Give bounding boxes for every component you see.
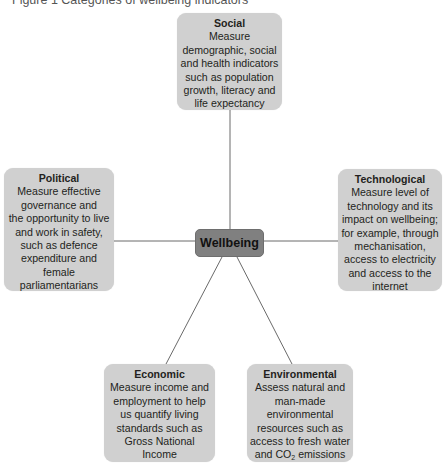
node-economic-heading: Economic <box>106 368 213 381</box>
node-economic: Economic Measure income and employment t… <box>104 364 215 462</box>
node-technological: Technological Measure level of technolog… <box>338 169 442 291</box>
node-social-body: Measure demographic, social and health i… <box>179 30 280 110</box>
node-environmental: Environmental Assess natural and man-mad… <box>247 364 353 462</box>
node-economic-body: Measure income and employment to help us… <box>106 381 213 461</box>
node-political: Political Measure effective governance a… <box>4 168 114 291</box>
node-political-heading: Political <box>6 172 112 185</box>
node-environmental-body: Assess natural and man-made environmenta… <box>249 381 351 461</box>
node-political-body: Measure effective governance and the opp… <box>6 185 112 292</box>
center-node-wellbeing: Wellbeing <box>195 229 264 257</box>
node-technological-heading: Technological <box>340 173 440 186</box>
node-social: Social Measure demographic, social and h… <box>177 13 282 110</box>
node-technological-body: Measure level of technology and its impa… <box>340 186 440 293</box>
connector-economic <box>166 257 222 364</box>
node-social-heading: Social <box>179 17 280 30</box>
connector-environmental <box>237 257 292 364</box>
node-environmental-heading: Environmental <box>249 368 351 381</box>
